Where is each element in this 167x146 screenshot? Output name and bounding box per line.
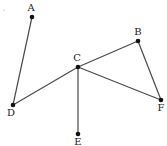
node-label-d: D	[7, 107, 15, 118]
node-a	[30, 15, 35, 20]
node-label-a: A	[26, 2, 35, 13]
node-c	[76, 65, 81, 70]
node-b	[136, 39, 141, 44]
node-label-f: F	[158, 102, 165, 113]
node-label-e: E	[74, 136, 81, 146]
edge-a-d	[13, 17, 32, 105]
edge-c-b	[78, 41, 138, 67]
graph-diagram: ABCDEF	[0, 0, 167, 146]
edge-c-f	[78, 67, 161, 100]
stray-mark	[3, 9, 4, 10]
node-label-c: C	[73, 52, 81, 63]
edge-b-f	[138, 41, 161, 100]
node-label-b: B	[134, 26, 141, 37]
edge-d-c	[13, 67, 78, 105]
